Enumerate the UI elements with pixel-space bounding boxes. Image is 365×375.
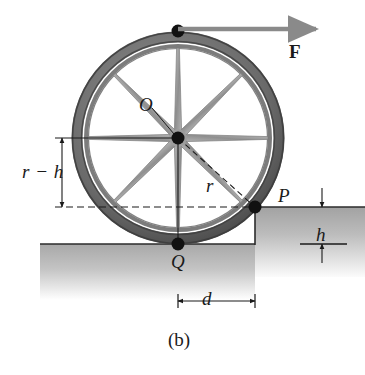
contact-dot-p: [249, 201, 262, 214]
wheel-spoke: [112, 135, 181, 204]
label-force-f: F: [289, 42, 301, 61]
contact-dot-q: [172, 238, 185, 251]
center-dot-o: [172, 132, 185, 145]
wheel-spoke: [174, 48, 182, 138]
o-label-leader-line: [152, 108, 174, 134]
wheel-spoke: [178, 134, 268, 142]
ground-upper-surface: [255, 207, 365, 277]
ground-lower-surface: [40, 244, 255, 300]
label-point-p: P: [278, 186, 290, 205]
label-radius-r: r: [206, 176, 213, 195]
label-step-height-h: h: [316, 225, 326, 244]
label-distance-d: d: [202, 289, 212, 308]
wheel-step-diagram: [0, 0, 365, 375]
label-center-o: O: [139, 95, 153, 114]
figure-caption: (b): [168, 330, 190, 349]
ground-step: [40, 207, 365, 300]
label-r-minus-h: r − h: [22, 162, 64, 181]
label-point-q: Q: [171, 252, 185, 271]
wheel-spoke: [175, 72, 244, 141]
radius-line-o-to-p: [178, 138, 255, 207]
